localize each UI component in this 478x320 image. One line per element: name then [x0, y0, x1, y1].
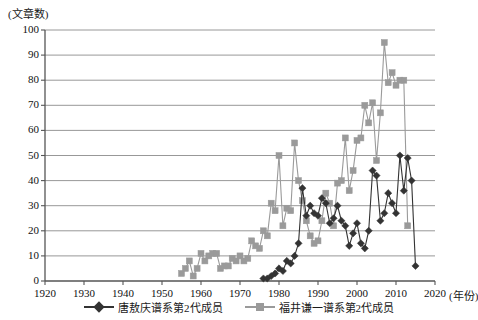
y-tick-0: 0: [5, 274, 39, 286]
plot-surface: [0, 0, 478, 320]
legend-item-1[interactable]: 唐敖庆谱系第2代成员: [84, 299, 223, 315]
legend-swatch-square-icon: [245, 302, 275, 312]
x-tick-1940: 1940: [107, 287, 139, 299]
y-tick-60: 60: [5, 123, 39, 135]
chart-container: (文章数) (年份) 0102030405060708090100 192019…: [0, 0, 478, 320]
y-tick-70: 70: [5, 98, 39, 110]
y-tick-80: 80: [5, 73, 39, 85]
gridlines: [45, 30, 435, 256]
chart-legend: 唐敖庆谱系第2代成员福井谦一谱系第2代成员: [0, 299, 478, 315]
x-tick-2000: 2000: [341, 287, 373, 299]
series-2: [260, 152, 419, 282]
data-series-layer: [179, 40, 420, 283]
x-tick-1960: 1960: [185, 287, 217, 299]
x-tick-1980: 1980: [263, 287, 295, 299]
legend-label: 福井谦一谱系第2代成员: [279, 299, 395, 315]
x-tick-2010: 2010: [380, 287, 412, 299]
x-tick-1970: 1970: [224, 287, 256, 299]
y-tick-100: 100: [5, 23, 39, 35]
series-1: [179, 40, 411, 279]
x-tick-1950: 1950: [146, 287, 178, 299]
legend-swatch-diamond-icon: [84, 302, 114, 312]
y-tick-30: 30: [5, 199, 39, 211]
x-tick-1920: 1920: [29, 287, 61, 299]
x-tick-1930: 1930: [68, 287, 100, 299]
legend-label: 唐敖庆谱系第2代成员: [118, 299, 223, 315]
y-tick-90: 90: [5, 48, 39, 60]
y-tick-50: 50: [5, 149, 39, 161]
y-tick-20: 20: [5, 224, 39, 236]
y-axis-title: (文章数): [8, 5, 48, 21]
y-tick-10: 10: [5, 249, 39, 261]
legend-item-2[interactable]: 福井谦一谱系第2代成员: [245, 299, 395, 315]
x-tick-2020: 2020: [419, 287, 451, 299]
y-tick-40: 40: [5, 174, 39, 186]
x-tick-1990: 1990: [302, 287, 334, 299]
